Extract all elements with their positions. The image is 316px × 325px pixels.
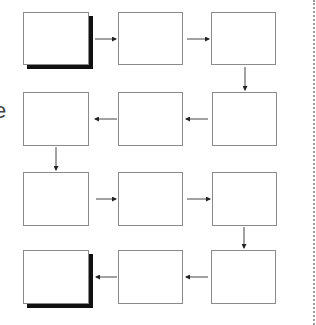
flow-arrows — [0, 0, 316, 325]
dotted-divider — [313, 0, 315, 325]
flowchart-canvas: e — [0, 0, 316, 325]
